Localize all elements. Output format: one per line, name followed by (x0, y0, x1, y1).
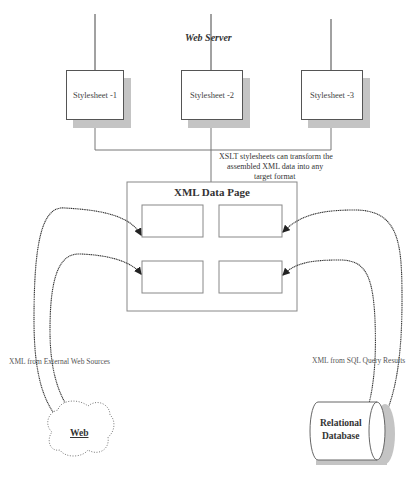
right-edge-label: XML from SQL Query Results (312, 356, 405, 365)
data-slot-4 (219, 261, 282, 293)
arrow-db-to-slot-2 (283, 210, 402, 425)
xslt-note-line-3: target format (254, 172, 295, 181)
stylesheet-1-label: Stylesheet -1 (73, 90, 117, 100)
data-slot-1 (142, 205, 203, 237)
stylesheet-3-box: Stylesheet -3 (301, 70, 363, 120)
web-server-title: Web Server (185, 32, 232, 43)
stylesheet-3-label: Stylesheet -3 (310, 90, 354, 100)
xslt-note-line-2: assembled XML data into any (227, 162, 323, 171)
web-label: Web (70, 428, 88, 438)
database-label-line-2: Database (322, 431, 359, 441)
stylesheet-1-box: Stylesheet -1 (66, 70, 124, 120)
data-slot-2 (219, 205, 282, 237)
data-slot-3 (142, 261, 203, 293)
left-edge-label: XML from External Web Sources (9, 357, 110, 366)
xslt-note-line-1: XSLT stylesheets can transform the (219, 152, 333, 161)
xml-data-page-title: XML Data Page (174, 186, 250, 198)
stylesheet-2-label: Stylesheet -2 (190, 90, 234, 100)
database-label-line-1: Relational (320, 418, 362, 428)
stylesheet-2-box: Stylesheet -2 (181, 70, 243, 120)
